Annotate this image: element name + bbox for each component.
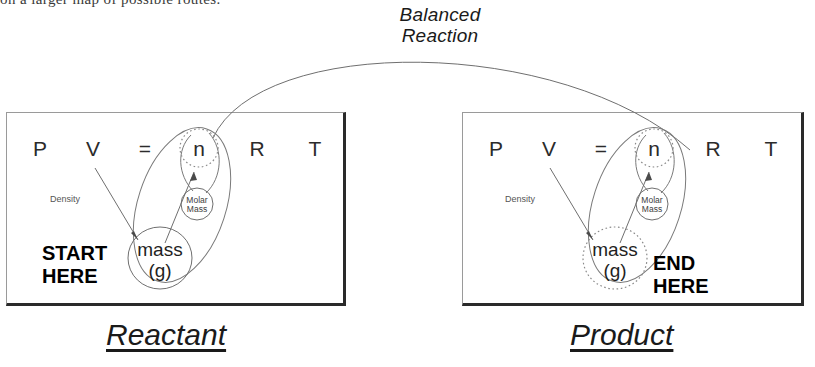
reactant-start-here-line1: START [42, 243, 107, 264]
diagram-canvas: on a larger map of possible routes. Bala… [0, 0, 815, 367]
product-eq-T: T [759, 137, 783, 161]
product-eq-R: R [701, 137, 725, 161]
product-eq-V: V [537, 137, 561, 161]
reactant-molar-label-line2: Mass [177, 205, 217, 215]
reactant-mass-label-line1: mass [125, 240, 195, 260]
product-molar-label-line2: Mass [632, 205, 672, 215]
product-eq-equals: = [589, 137, 613, 161]
product-eq-n: n [642, 137, 666, 161]
reactant-start-here-line2: HERE [42, 266, 98, 287]
product-mass-label-line1: mass [580, 240, 650, 260]
reactant-caption: Reactant [106, 318, 226, 352]
product-end-here-line1: END [653, 253, 695, 274]
reactant-density-label: Density [50, 194, 80, 204]
reactant-eq-V: V [81, 137, 105, 161]
product-caption: Product [570, 318, 673, 352]
reactant-eq-equals: = [133, 137, 157, 161]
product-end-here-line2: HERE [653, 276, 709, 297]
reactant-eq-n: n [187, 137, 211, 161]
product-mass-label-line2: (g) [580, 261, 650, 281]
reactant-eq-R: R [245, 137, 269, 161]
reactant-eq-P: P [28, 137, 52, 161]
clipped-header-text: on a larger map of possible routes. [0, 0, 300, 9]
reactant-mass-label-line2: (g) [125, 261, 195, 281]
reactant-eq-T: T [303, 137, 327, 161]
balanced-reaction-label: Balanced Reaction [355, 4, 525, 46]
product-eq-P: P [484, 137, 508, 161]
balanced-reaction-line1: Balanced [355, 4, 525, 25]
product-density-label: Density [505, 194, 535, 204]
balanced-reaction-line2: Reaction [355, 25, 525, 46]
